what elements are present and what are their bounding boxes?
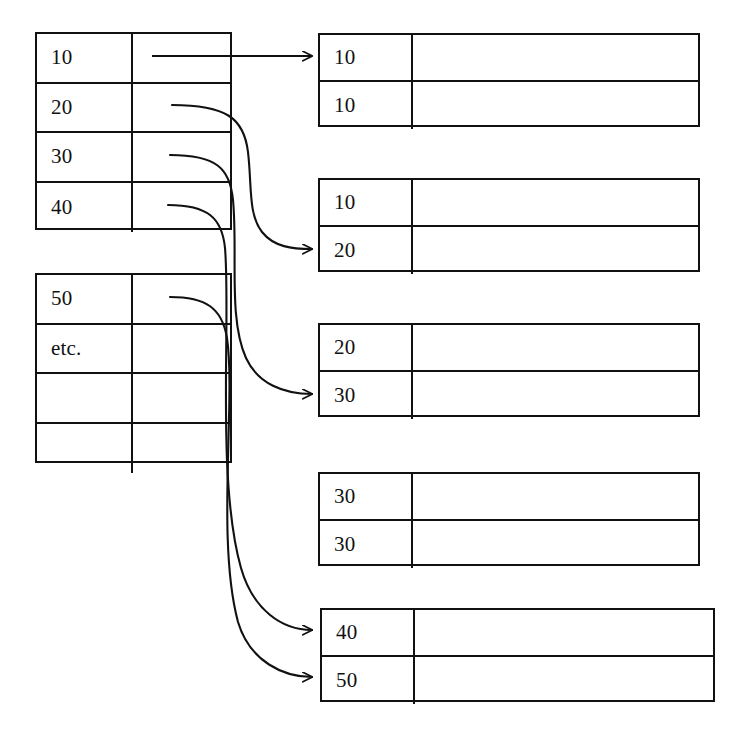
result-box-1-value-0: [413, 35, 698, 80]
table-row: 20: [320, 227, 698, 274]
result-box-3: 20 30: [318, 323, 700, 417]
result-box-2-key-0: 10: [320, 180, 413, 225]
result-box-3-value-0: [413, 325, 698, 370]
result-box-4-key-1: 30: [320, 521, 413, 568]
table-row: 10: [37, 34, 230, 84]
source-table-1-value-3: [133, 183, 230, 233]
result-box-3-value-1: [413, 372, 698, 419]
result-box-1-key-1: 10: [320, 82, 413, 129]
table-row: 10: [320, 82, 698, 129]
table-row: [37, 374, 230, 424]
result-box-5-key-1: 50: [322, 657, 415, 704]
table-row: 20: [320, 325, 698, 372]
result-box-2-value-0: [413, 180, 698, 225]
result-box-5-value-1: [415, 657, 713, 704]
diagram-canvas: 10 20 30 40 50 etc.: [0, 0, 739, 746]
source-table-1-key-1: 20: [37, 84, 133, 132]
result-box-3-key-0: 20: [320, 325, 413, 370]
source-table-2-key-3: [37, 424, 133, 474]
table-row: 30: [37, 133, 230, 183]
table-row: 20: [37, 84, 230, 134]
table-row: 40: [37, 183, 230, 233]
source-table-2-value-3: [133, 424, 230, 474]
source-table-1-key-3: 40: [37, 183, 133, 233]
source-table-2-key-2: [37, 374, 133, 422]
result-box-4-value-0: [413, 474, 698, 519]
source-table-2-value-2: [133, 374, 230, 422]
result-box-4: 30 30: [318, 472, 700, 566]
table-row: 30: [320, 372, 698, 419]
table-row: 30: [320, 474, 698, 521]
result-box-2-key-1: 20: [320, 227, 413, 274]
result-box-2-value-1: [413, 227, 698, 274]
result-box-1-value-1: [413, 82, 698, 129]
table-row: etc.: [37, 325, 230, 375]
source-table-2-key-1: etc.: [37, 325, 133, 373]
result-box-5: 40 50: [320, 608, 715, 702]
table-row: 10: [320, 180, 698, 227]
table-row: 10: [320, 35, 698, 82]
result-box-4-value-1: [413, 521, 698, 568]
source-table-2-value-0: [133, 275, 230, 323]
source-table-1-key-2: 30: [37, 133, 133, 181]
result-box-5-value-0: [415, 610, 713, 655]
table-row: 40: [322, 610, 713, 657]
table-row: 30: [320, 521, 698, 568]
source-table-2-key-0: 50: [37, 275, 133, 323]
table-row: 50: [322, 657, 713, 704]
result-box-3-key-1: 30: [320, 372, 413, 419]
source-table-2-value-1: [133, 325, 230, 373]
result-box-1-key-0: 10: [320, 35, 413, 80]
source-table-1-value-2: [133, 133, 230, 181]
result-box-2: 10 20: [318, 178, 700, 272]
table-row: [37, 424, 230, 474]
table-row: 50: [37, 275, 230, 325]
source-table-1-key-0: 10: [37, 34, 133, 82]
source-table-1: 10 20 30 40: [35, 32, 232, 230]
result-box-5-key-0: 40: [322, 610, 415, 655]
source-table-1-value-1: [133, 84, 230, 132]
result-box-1: 10 10: [318, 33, 700, 127]
source-table-1-value-0: [133, 34, 230, 82]
result-box-4-key-0: 30: [320, 474, 413, 519]
source-table-2: 50 etc.: [35, 273, 232, 463]
